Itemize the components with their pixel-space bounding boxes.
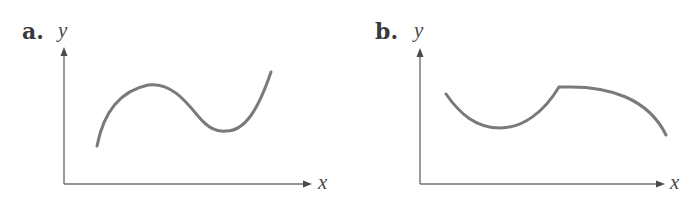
x-axis-arrow-icon xyxy=(303,181,312,188)
graph-a-canvas xyxy=(0,0,348,206)
y-axis-arrow-icon xyxy=(61,47,68,56)
y-axis-arrow-icon xyxy=(417,48,424,57)
curve-a xyxy=(97,72,271,146)
axes-a xyxy=(61,47,313,188)
graph-panel-b: b. y x xyxy=(348,0,696,206)
axes-b xyxy=(417,48,666,188)
x-axis-arrow-icon xyxy=(656,181,665,188)
graph-b-canvas xyxy=(348,0,696,206)
graph-panel-a: a. y x xyxy=(0,0,348,206)
curve-b xyxy=(446,87,666,135)
